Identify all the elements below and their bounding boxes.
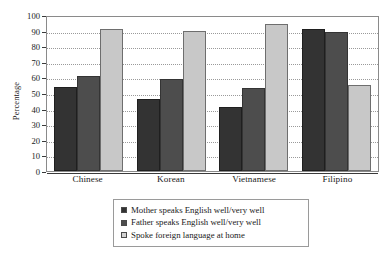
legend-swatch-icon (121, 232, 127, 238)
y-tick-label: 70 (18, 59, 40, 68)
plot-area (46, 16, 379, 172)
bar[interactable] (54, 87, 77, 171)
x-category-label: Chinese (46, 174, 129, 184)
y-tick-label: 0 (18, 168, 40, 177)
bar-group (47, 17, 130, 171)
bar[interactable] (137, 99, 160, 171)
bar[interactable] (219, 107, 242, 171)
bar-chart: Percentage 0102030405060708090100 Chines… (0, 0, 388, 261)
x-category-label: Korean (129, 174, 212, 184)
y-tick-mark (42, 141, 46, 142)
bar-group (130, 17, 213, 171)
legend-swatch-icon (121, 207, 127, 213)
y-tick-mark (42, 78, 46, 79)
legend-label: Mother speaks English well/very well (131, 206, 264, 215)
y-tick-label: 20 (18, 137, 40, 146)
y-tick-mark (42, 172, 46, 173)
bar[interactable] (348, 85, 371, 171)
y-tick-label: 80 (18, 43, 40, 52)
y-tick-mark (42, 110, 46, 111)
x-category-label: Vietnamese (213, 174, 296, 184)
bar[interactable] (183, 31, 206, 171)
bar[interactable] (302, 29, 325, 171)
legend-item[interactable]: Spoke foreign language at home (121, 229, 301, 242)
bar-group (295, 17, 378, 171)
bar-group (213, 17, 296, 171)
bar[interactable] (100, 29, 123, 171)
x-category-label: Filipino (296, 174, 379, 184)
x-axis-category-labels: ChineseKoreanVietnameseFilipino (46, 174, 379, 184)
y-tick-label: 40 (18, 105, 40, 114)
y-tick-label: 50 (18, 90, 40, 99)
y-tick-label: 90 (18, 27, 40, 36)
legend-label: Spoke foreign language at home (131, 231, 245, 240)
y-tick-mark (42, 94, 46, 95)
chart-legend: Mother speaks English well/very wellFath… (113, 199, 309, 247)
legend-label: Father speaks English well/very well (131, 218, 261, 227)
y-axis-tick-labels: 0102030405060708090100 (18, 16, 40, 172)
y-tick-label: 30 (18, 121, 40, 130)
y-tick-label: 10 (18, 152, 40, 161)
bar[interactable] (325, 32, 348, 171)
y-tick-mark (42, 156, 46, 157)
bar[interactable] (265, 24, 288, 171)
bar[interactable] (77, 76, 100, 171)
y-tick-label: 60 (18, 74, 40, 83)
y-tick-mark (42, 32, 46, 33)
y-tick-mark (42, 125, 46, 126)
legend-item[interactable]: Father speaks English well/very well (121, 217, 301, 230)
legend-item[interactable]: Mother speaks English well/very well (121, 204, 301, 217)
bar[interactable] (242, 88, 265, 171)
y-tick-mark (42, 63, 46, 64)
legend-swatch-icon (121, 220, 127, 226)
bar-groups (47, 17, 378, 171)
y-tick-mark (42, 16, 46, 17)
bar[interactable] (160, 79, 183, 171)
y-tick-label: 100 (18, 12, 40, 21)
y-tick-mark (42, 47, 46, 48)
